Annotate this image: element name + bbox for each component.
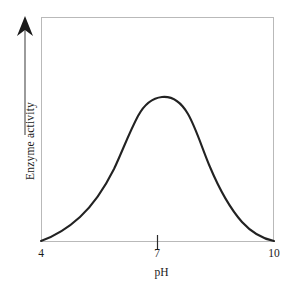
x-axis-title: pH xyxy=(154,266,168,278)
y-axis-title: Enzyme activity xyxy=(21,71,39,211)
x-axis-title-wrapper: pH xyxy=(0,266,293,278)
x-tick-label-10: 10 xyxy=(259,247,289,259)
plot-frame xyxy=(41,17,274,242)
x-tick-label-7: 7 xyxy=(142,247,172,259)
x-tick-label-4: 4 xyxy=(26,247,56,259)
enzyme-activity-ph-figure: Enzyme activity 4 7 10 pH xyxy=(0,0,293,289)
